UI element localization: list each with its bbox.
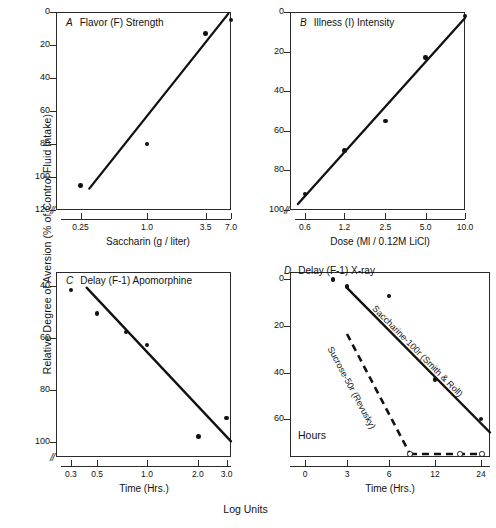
panel-b: BIllness (I) Intensity 0 20 40 60 80 100…: [245, 0, 491, 264]
panel-a-ytick-mark: [50, 12, 56, 13]
panel-d-ytick: 60: [262, 413, 284, 423]
panel-c-xtick-mark: [227, 460, 228, 466]
panel-b-xtick: 10.0: [445, 222, 485, 232]
panel-a-point: [229, 18, 234, 23]
panel-b-xtick-mark: [305, 213, 306, 219]
panel-b-xtick-mark: [385, 213, 386, 219]
panel-b-ytick-mark: [284, 12, 290, 13]
panel-d-xtick-mark: [435, 460, 436, 466]
panel-d-hours-annotation: Hours: [298, 429, 326, 441]
panel-d-ytick: 40: [262, 367, 284, 377]
panel-c-xtick: 0.5: [77, 469, 117, 479]
panel-a-ytick: 80: [22, 138, 50, 148]
panel-d-open-point: [457, 451, 462, 456]
panel-c-ytick: 100: [19, 436, 50, 446]
panel-c-ytick: 80: [22, 384, 50, 394]
panel-a-point: [203, 31, 208, 36]
panel-b-xaxis-line: [295, 219, 465, 220]
panel-b-ytick-mark: [284, 52, 290, 53]
panel-a-xaxis-line: [61, 219, 231, 220]
panel-b-ytick-mark: [284, 131, 290, 132]
panel-d-ytick-mark: [284, 326, 290, 327]
panel-c-ytick-mark: [50, 390, 56, 391]
panel-a-ytick-mark: [50, 45, 56, 46]
panel-d-ytick-mark: [284, 419, 290, 420]
panel-c-xtick: 3.0: [207, 469, 247, 479]
panel-b-axis-break: //: [284, 204, 288, 216]
panel-d-xaxis-line: [290, 466, 490, 467]
panel-d-xaxis-title: Time (Hrs.): [340, 483, 440, 494]
panel-b-xaxis-title: Dose (Ml / 0.12M LiCl): [307, 236, 453, 247]
panel-d-xtick: 3: [327, 469, 367, 479]
panel-a-axis-break: //: [50, 204, 54, 216]
panel-a-xaxis-title: Saccharin (g / liter): [78, 236, 218, 247]
panel-a-xtick: 0.25: [61, 222, 101, 232]
panel-c-xaxis-title: Time (Hrs.): [94, 483, 194, 494]
panel-b-graphics: [290, 12, 465, 210]
panel-c-point: [196, 434, 201, 439]
panel-d-xtick: 0: [285, 469, 325, 479]
panel-b-xtick-mark: [344, 213, 345, 219]
panel-a-xtick-mark: [81, 213, 82, 219]
panel-c-ytick: 60: [22, 332, 50, 342]
panel-a-ytick-mark: [50, 177, 56, 178]
panel-a-xtick-mark: [231, 213, 232, 219]
panel-d: DDelay (F-1) X-ray Saccharine-100r (Smit…: [245, 264, 491, 528]
panel-d-xtick: 6: [369, 469, 409, 479]
panel-c-xaxis-line: [61, 466, 231, 467]
panel-c-xtick-mark: [71, 460, 72, 466]
panel-b-xtick-mark: [465, 213, 466, 219]
panel-d-ytick: 20: [262, 320, 284, 330]
panel-d-xtick-mark: [347, 460, 348, 466]
panel-b-point: [423, 55, 428, 60]
panel-d-open-point: [479, 451, 484, 456]
panel-b-xtick-mark: [426, 213, 427, 219]
panel-b-ytick-mark: [284, 170, 290, 171]
panel-a-fit-line: [89, 14, 228, 189]
panel-a-ytick: 20: [22, 39, 50, 49]
panel-c-ytick-mark: [50, 286, 56, 287]
panel-a-ytick-mark: [50, 78, 56, 79]
panel-d-xtick-mark: [481, 460, 482, 466]
panel-a-xtick-mark: [206, 213, 207, 219]
panel-a-ytick: 120: [22, 204, 50, 214]
panel-c-ytick-mark: [50, 338, 56, 339]
panel-a-graphics: [56, 12, 231, 210]
panel-c-point: [224, 416, 229, 421]
panel-b-xtick: 0.6: [285, 222, 325, 232]
panel-a-point: [78, 183, 83, 188]
panel-c-graphics: [56, 272, 231, 457]
panel-b-point: [463, 14, 468, 19]
panel-b-ytick: 20: [256, 46, 284, 56]
panel-a-ytick: 40: [22, 72, 50, 82]
panel-d-xtick-mark: [389, 460, 390, 466]
panel-a-ytick-mark: [50, 111, 56, 112]
panel-a-xtick-mark: [147, 213, 148, 219]
panel-d-xtick: 24: [461, 469, 496, 479]
panel-b-ytick-mark: [284, 91, 290, 92]
panel-a-ytick: 100: [22, 171, 50, 181]
panel-b-ytick: 100: [256, 204, 284, 214]
panel-d-ytick-mark: [284, 279, 290, 280]
panel-b-ytick: 40: [256, 85, 284, 95]
panel-d-point: [331, 277, 336, 282]
panel-c-xtick-mark: [97, 460, 98, 466]
panel-a-ytick: 60: [22, 105, 50, 115]
panel-a-ytick-mark: [50, 144, 56, 145]
panel-d-ytick-mark: [284, 373, 290, 374]
panel-d-ytick: 0: [262, 273, 284, 283]
panel-c-ytick-mark: [50, 442, 56, 443]
panel-b-point: [383, 119, 388, 124]
panel-b-xtick: 1.2: [324, 222, 364, 232]
panel-b-ytick: 80: [256, 164, 284, 174]
panel-b-xtick: 5.0: [406, 222, 446, 232]
panel-c-xtick-mark: [147, 460, 148, 466]
panel-c-xtick-mark: [198, 460, 199, 466]
panel-d-open-point: [407, 451, 412, 456]
panel-d-xtick-mark: [305, 460, 306, 466]
panel-c-xtick: 1.0: [127, 469, 167, 479]
panel-d-point: [345, 284, 350, 289]
panel-c-ytick: 40: [22, 280, 50, 290]
panel-c-axis-break: //: [50, 451, 54, 463]
